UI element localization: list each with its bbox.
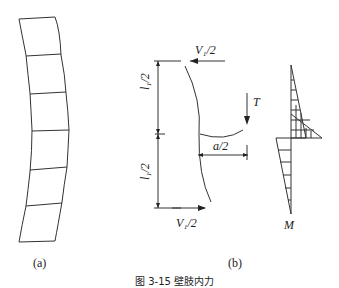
offset-label: a/2: [213, 139, 228, 154]
tension-label: T: [253, 95, 260, 110]
bottom-shear-label: V₁/2: [176, 216, 197, 231]
top-shear-label: V₁/2: [195, 43, 216, 58]
figure-caption: 图 3-15 壁肢内力: [135, 273, 214, 288]
moment-label: M: [284, 218, 294, 233]
upper-length-label: l₁/2: [138, 73, 153, 90]
moment-diagram: [276, 65, 322, 214]
panel-a-label: (a): [33, 256, 46, 271]
lower-length-label: l₁/2: [138, 163, 153, 180]
column-free-body: [154, 61, 248, 208]
deformed-wall-frame: [19, 17, 69, 242]
panel-b-label: (b): [228, 256, 242, 271]
